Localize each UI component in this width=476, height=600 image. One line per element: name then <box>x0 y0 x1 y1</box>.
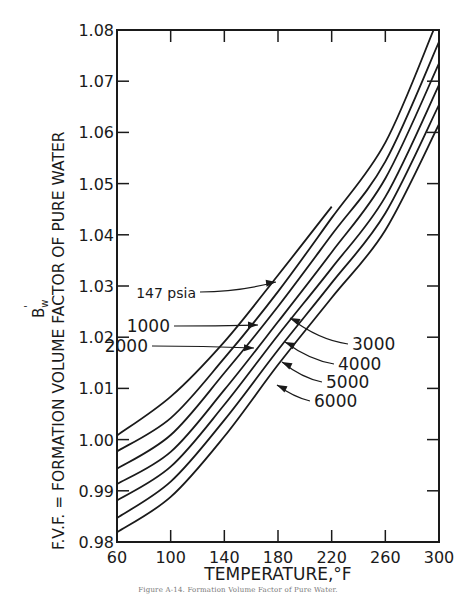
y-tick-label: 0.98 <box>78 533 114 552</box>
y-tick-label: 0.99 <box>78 482 114 501</box>
x-tick-label: 100 <box>155 548 186 567</box>
y-tick-label: 1.00 <box>78 431 114 450</box>
curve-label: 4000 <box>338 354 381 374</box>
curve-3000 <box>117 63 439 484</box>
y-tick-label: 1.04 <box>78 226 114 245</box>
curve-labels: 147 psia100020003000400050006000 <box>105 280 396 411</box>
x-tick-label: 300 <box>424 548 455 567</box>
x-tick-label: 260 <box>370 548 401 567</box>
pressure-curves <box>117 30 439 532</box>
y-tick-label: 1.07 <box>78 72 114 91</box>
y-tick-label: 1.01 <box>78 379 114 398</box>
curve-2000 <box>117 42 439 469</box>
fvf-chart: 60100140180220260300 0.980.991.001.011.0… <box>0 0 476 600</box>
curve-1000 <box>117 30 434 451</box>
arrow-icon <box>244 344 254 351</box>
curve-label: 2000 <box>105 336 148 356</box>
y-axis-label: F.V.F. = FORMATION VOLUME FACTOR OF PURE… <box>50 131 68 550</box>
y-tick-label: 1.08 <box>78 21 114 40</box>
y-axis-symbol: Bw ' <box>23 300 50 318</box>
figure-caption: Figure A-14. Formation Volume Factor of … <box>0 586 476 594</box>
y-tick-label: 1.05 <box>78 175 114 194</box>
y-axis-title: F.V.F. = FORMATION VOLUME FACTOR OF PURE… <box>50 131 68 550</box>
curve-label: 1000 <box>127 316 170 336</box>
x-axis-label: TEMPERATURE,°F <box>203 564 351 584</box>
y-tick-label: 1.06 <box>78 123 114 142</box>
curve-label: 147 psia <box>136 285 196 301</box>
y-tick-label: 1.03 <box>78 277 114 296</box>
curve-label: 5000 <box>326 372 369 392</box>
curve-label: 3000 <box>352 334 395 354</box>
curve-label: 6000 <box>314 391 357 411</box>
bw-prime: ' <box>23 305 34 308</box>
